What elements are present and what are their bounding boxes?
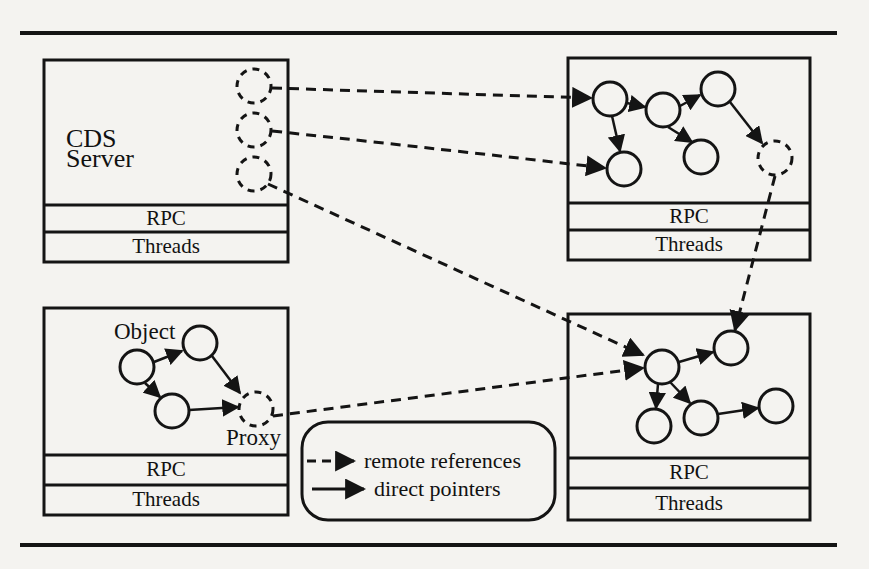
proxy-nodes-top-left [237,69,271,191]
proxy-label: Proxy [226,426,281,449]
box-top-right [568,58,810,260]
layer-rpc: RPC [568,206,810,227]
layer-rpc: RPC [44,459,288,480]
legend-label-direct: direct pointers [374,478,500,500]
proxy-node-bottom-left [239,392,273,426]
object-nodes-bottom-right [637,331,793,443]
layer-rpc: RPC [44,208,288,229]
legend-label-remote: remote references [364,450,521,472]
layer-threads: Threads [44,489,288,510]
box-title-line2: Server [66,146,134,172]
layer-rpc: RPC [568,462,810,483]
layer-threads: Threads [44,236,288,257]
layer-threads: Threads [568,493,810,514]
proxy-node-top-right [758,141,792,175]
layer-threads: Threads [568,234,810,255]
object-label: Object [114,320,175,343]
box-bottom-right [568,314,810,520]
figure: CDS Server RPC Threads RPC Threads Objec… [0,0,869,569]
